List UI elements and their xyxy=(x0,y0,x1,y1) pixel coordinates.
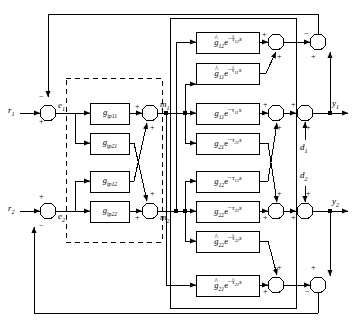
disturbance-label-d1: d1 xyxy=(300,143,308,154)
sign-top-left-plus: + xyxy=(262,31,267,39)
sign-m2-direct-plus: + xyxy=(135,214,140,222)
signal-label-m2: m2 xyxy=(160,213,170,224)
block-diagram: gip11 gip21 gip12 gip22 g^12e−τ^12s g^11… xyxy=(0,0,354,326)
sign-top-cross-plus: + xyxy=(277,53,282,61)
process-block-ghat21[interactable]: g^21e−τ^21s xyxy=(196,275,260,297)
disturbance-label-d2: d2 xyxy=(300,171,308,182)
sign-bot-left-plus: + xyxy=(263,288,268,296)
sign-y1fb-left-minus: − xyxy=(304,30,309,38)
sign-y1fb-top-plus: + xyxy=(311,53,316,61)
sign-y1b-dist-plus: + xyxy=(306,124,311,132)
error-label-e1: e1 xyxy=(58,101,65,112)
controller-block-gip11-label: gip11 xyxy=(103,108,117,119)
sign-r2-feedback-minus: − xyxy=(39,222,44,230)
sign-y2a-left-plus: + xyxy=(263,214,268,222)
output-label-y2: y2 xyxy=(332,197,339,208)
process-block-g12-label: g12e−τ12s xyxy=(214,175,242,188)
sign-r1-feedback-minus: − xyxy=(39,93,44,101)
process-block-g11[interactable]: g11e−τ11s xyxy=(196,103,260,125)
controller-block-gip21[interactable]: gip21 xyxy=(90,133,130,155)
input-label-r1: r1 xyxy=(8,106,15,117)
sign-y1a-cross-plus: + xyxy=(277,124,282,132)
sign-y1a-left-plus: + xyxy=(263,101,268,109)
sign-r1-input-plus: + xyxy=(39,118,44,126)
sign-y2b-left-plus: + xyxy=(291,214,296,222)
sign-r2-input-plus: + xyxy=(39,193,44,201)
sign-y2b-dist-plus: + xyxy=(306,190,311,198)
process-block-g21[interactable]: g21e−τ21s xyxy=(196,133,260,155)
process-block-ghat22-label: g^22e−τ^22s xyxy=(214,235,242,248)
sign-y2a-cross-plus: + xyxy=(277,190,282,198)
signal-label-m1: m1 xyxy=(160,100,170,111)
controller-block-gip22[interactable]: gip22 xyxy=(90,201,130,223)
process-block-g12[interactable]: g12e−τ12s xyxy=(196,171,260,193)
sign-bot-cross-plus: + xyxy=(277,264,282,272)
sign-y1b-left-plus: + xyxy=(291,101,296,109)
input-label-r2: r2 xyxy=(8,204,15,215)
controller-block-gip11[interactable]: gip11 xyxy=(90,103,130,125)
controller-block-gip22-label: gip22 xyxy=(103,206,118,217)
process-block-g11-label: g11e−τ11s xyxy=(215,107,242,120)
process-block-g22-label: g22e−τ22s xyxy=(214,205,242,218)
process-block-ghat11[interactable]: g^11e−τ^11s xyxy=(196,63,260,85)
error-label-e2: e2 xyxy=(58,212,65,223)
process-block-ghat12[interactable]: g^12e−τ^12s xyxy=(196,32,260,54)
sign-y2fb-top-plus: + xyxy=(311,264,316,272)
sign-y2fb-left-minus: − xyxy=(305,288,310,296)
controller-block-gip21-label: gip21 xyxy=(103,138,118,149)
sign-m1-direct-plus: + xyxy=(135,103,140,111)
controller-block-gip12-label: gip12 xyxy=(103,176,118,187)
diagram-wires xyxy=(0,0,354,326)
process-block-ghat11-label: g^11e−τ^11s xyxy=(215,67,242,80)
process-block-ghat21-label: g^21e−τ^21s xyxy=(214,279,242,292)
process-block-ghat22[interactable]: g^22e−τ^22s xyxy=(196,231,260,253)
output-label-y1: y1 xyxy=(332,99,339,110)
sign-m1-cross-plus: + xyxy=(150,124,155,132)
controller-block-gip12[interactable]: gip12 xyxy=(90,171,130,193)
process-block-g21-label: g21e−τ21s xyxy=(214,137,242,150)
process-block-ghat12-label: g^12e−τ^12s xyxy=(214,36,242,49)
sign-m2-cross-plus: + xyxy=(150,190,155,198)
process-block-g22[interactable]: g22e−τ22s xyxy=(196,201,260,223)
